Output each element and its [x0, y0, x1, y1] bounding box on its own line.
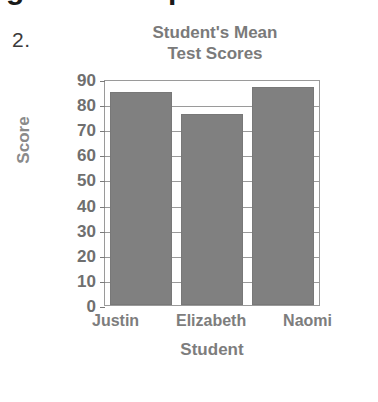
- y-axis-tick: [100, 131, 105, 132]
- bar-elizabeth: [181, 114, 243, 305]
- question-number: 2.: [12, 28, 31, 52]
- x-axis-label: Student: [104, 340, 320, 360]
- chart-title-line-2: Test Scores: [96, 43, 334, 64]
- y-axis-tick: [100, 257, 105, 258]
- y-axis-tick: [100, 282, 105, 283]
- y-axis-tick-label: 20: [77, 247, 96, 264]
- bar-slot: [248, 81, 319, 305]
- x-axis-tick-labels: JustinElizabethNaomi: [92, 312, 332, 330]
- bar-series: [105, 81, 319, 305]
- y-axis-tick: [100, 81, 105, 82]
- x-axis-tick-label: Elizabeth: [176, 312, 246, 330]
- bar-naomi: [252, 87, 314, 305]
- y-axis-tick-label: 80: [77, 97, 96, 114]
- cropped-text-above: g p: [0, 0, 378, 8]
- x-axis-tick-label: Naomi: [283, 312, 332, 330]
- y-axis-tick-label: 50: [77, 172, 96, 189]
- y-axis-tick: [100, 232, 105, 233]
- y-axis-tick: [100, 181, 105, 182]
- y-axis-tick-label: 10: [77, 272, 96, 289]
- y-axis-label: Score: [14, 70, 34, 210]
- y-axis-tick-labels: 9080706050403020100: [58, 74, 102, 306]
- plot-area: [104, 80, 320, 306]
- y-axis-tick-label: 40: [77, 197, 96, 214]
- bar-slot: [176, 81, 247, 305]
- bar-slot: [105, 81, 176, 305]
- chart-title: Student's Mean Test Scores: [96, 22, 334, 64]
- y-axis-tick: [100, 106, 105, 107]
- x-axis-tick-label: Justin: [92, 312, 139, 330]
- chart-title-line-1: Student's Mean: [96, 22, 334, 43]
- bleed-glyph-left: g: [6, 0, 24, 4]
- bleed-glyph-right: p: [168, 0, 186, 4]
- y-axis-tick-label: 60: [77, 147, 96, 164]
- bar-justin: [110, 92, 172, 305]
- y-axis-tick: [100, 207, 105, 208]
- y-axis-tick-label: 70: [77, 122, 96, 139]
- y-axis-tick-label: 30: [77, 222, 96, 239]
- y-axis-tick: [100, 307, 105, 308]
- y-axis-tick: [100, 156, 105, 157]
- y-axis-tick-label: 90: [77, 72, 96, 89]
